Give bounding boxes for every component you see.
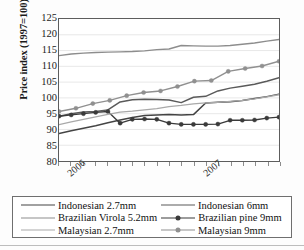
legend-marker-dot-icon <box>175 228 180 233</box>
x-axis-tick-mark <box>95 162 96 166</box>
legend-swatch-line-icon <box>21 225 55 235</box>
legend-row: Brazilian Virola 5.2mm Brazilian pine 9m… <box>13 212 291 225</box>
legend-swatch-line-marker-icon <box>161 225 195 235</box>
series-marker-dot-icon <box>106 109 110 113</box>
series-marker-dot-icon <box>277 59 279 63</box>
series-marker-dot-icon <box>69 113 73 117</box>
x-axis-tick-mark <box>255 162 256 166</box>
legend-label: Brazilian pine 9mm <box>195 212 281 223</box>
legend-label: Malaysian 2.7mm <box>55 225 134 236</box>
x-axis-tick-mark <box>58 162 59 166</box>
page-rule-divider <box>0 245 304 246</box>
legend-label: Indonesian 2.7mm <box>55 200 136 211</box>
series-marker-dot-icon <box>175 84 179 88</box>
y-axis-tick-label: 90 <box>47 125 58 136</box>
chart-page: Price index (1997=100) 12512011511010510… <box>0 0 304 250</box>
legend-swatch-line-icon <box>21 200 55 210</box>
series-marker-dot-icon <box>179 122 183 126</box>
legend-label: Brazilian Virola 5.2mm <box>55 212 157 223</box>
series-marker-dot-icon <box>228 118 232 122</box>
series-marker-dot-icon <box>226 69 230 73</box>
series-marker-dot-icon <box>59 109 61 113</box>
series-marker-dot-icon <box>130 117 134 121</box>
series-line-indonesian-6mm <box>59 78 279 116</box>
x-axis-tick-mark <box>132 162 133 166</box>
x-axis-tick-mark <box>280 162 281 166</box>
x-axis-tick-mark <box>157 162 158 166</box>
y-axis-title: Price index (1997=100) <box>18 0 29 120</box>
legend-swatch-line-icon <box>21 213 55 223</box>
legend-swatch-line-icon <box>161 200 195 210</box>
series-marker-dot-icon <box>240 118 244 122</box>
series-marker-dot-icon <box>265 116 269 120</box>
series-line-brazilian-virola-5-2mm <box>59 40 279 56</box>
series-marker-dot-icon <box>260 64 264 68</box>
series-marker-dot-icon <box>252 118 256 122</box>
x-axis-tick-mark <box>243 162 244 166</box>
legend-marker-dot-icon <box>176 215 181 220</box>
series-marker-dot-icon <box>108 98 112 102</box>
x-axis-tick-mark <box>268 162 269 166</box>
series-marker-dot-icon <box>158 89 162 93</box>
y-axis-tick-label: 95 <box>47 109 58 120</box>
legend-row: Indonesian 2.7mm Indonesian 6mm <box>13 199 291 212</box>
series-marker-dot-icon <box>125 94 129 98</box>
x-axis-tick-mark <box>107 162 108 166</box>
series-marker-dot-icon <box>155 117 159 121</box>
series-marker-dot-icon <box>142 90 146 94</box>
legend-label: Malaysian 9mm <box>195 225 266 236</box>
series-marker-dot-icon <box>192 79 196 83</box>
legend-item-malaysian-9mm: Malaysian 9mm <box>157 225 291 236</box>
series-marker-dot-icon <box>91 101 95 105</box>
x-axis-tick-mark <box>181 162 182 166</box>
series-marker-dot-icon <box>277 115 279 119</box>
legend-item-brazilian-virola-5-2mm: Brazilian Virola 5.2mm <box>13 212 157 223</box>
series-marker-dot-icon <box>94 110 98 114</box>
legend-swatch-line-marker-icon <box>161 213 195 223</box>
series-marker-dot-icon <box>142 117 146 121</box>
x-axis-tick-mark <box>120 162 121 166</box>
legend-item-indonesian-2-7mm: Indonesian 2.7mm <box>13 200 157 211</box>
y-axis-tick-label: 105 <box>41 77 57 88</box>
y-axis-tick-label: 80 <box>47 157 58 168</box>
legend-item-brazilian-pine-9mm: Brazilian pine 9mm <box>157 212 291 223</box>
series-marker-dot-icon <box>167 121 171 125</box>
series-marker-dot-icon <box>59 114 61 118</box>
series-marker-dot-icon <box>204 122 208 126</box>
legend-item-indonesian-6mm: Indonesian 6mm <box>157 200 291 211</box>
y-axis-tick-label: 120 <box>41 29 57 40</box>
y-axis-tick-labels: 12512011511010510095908580 <box>28 14 57 162</box>
series-marker-dot-icon <box>81 112 85 116</box>
series-marker-dot-icon <box>243 66 247 70</box>
series-marker-dot-icon <box>209 78 213 82</box>
x-axis-tick-mark <box>169 162 170 166</box>
series-marker-dot-icon <box>191 122 195 126</box>
series-marker-dot-icon <box>216 122 220 126</box>
series-marker-dot-icon <box>74 106 78 110</box>
x-axis-tick-mark <box>144 162 145 166</box>
plot-area <box>58 18 280 162</box>
legend-row: Malaysian 2.7mm Malaysian 9mm <box>13 224 291 237</box>
y-axis-tick-label: 125 <box>41 13 57 24</box>
chart-legend: Indonesian 2.7mm Indonesian 6mm Brazilia… <box>12 196 292 238</box>
legend-item-malaysian-2-7mm: Malaysian 2.7mm <box>13 225 157 236</box>
legend-label: Indonesian 6mm <box>195 200 268 211</box>
plot-svg <box>59 19 279 161</box>
line-chart: Price index (1997=100) 12512011511010510… <box>0 0 304 190</box>
y-axis-tick-label: 85 <box>47 141 58 152</box>
y-axis-tick-label: 115 <box>42 45 57 56</box>
x-axis-ticks <box>58 162 280 167</box>
y-axis-tick-label: 110 <box>42 61 57 72</box>
y-axis-tick-label: 100 <box>41 93 57 104</box>
x-axis-tick-mark <box>194 162 195 166</box>
x-axis-tick-mark <box>231 162 232 166</box>
series-marker-dot-icon <box>118 121 122 125</box>
